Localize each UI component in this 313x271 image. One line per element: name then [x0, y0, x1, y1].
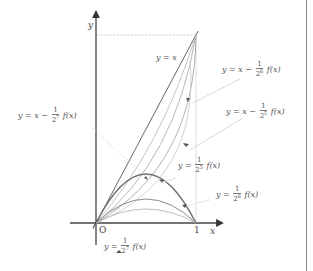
- label-y-eq-x: y = x: [156, 54, 177, 62]
- label-f-2-6: y = 126 f(x): [216, 186, 258, 203]
- label-x-minus-2-5: y = x − 125 f(x): [226, 103, 285, 120]
- curve-f-2-6: [96, 199, 196, 223]
- leader-line: [186, 200, 210, 206]
- arrow-marker: [183, 143, 189, 147]
- diagram-canvas: [0, 0, 313, 271]
- origin-label: O: [99, 225, 106, 235]
- x-tick-1: 1: [194, 225, 200, 235]
- function-diagram: y x O 1 y = x y = x − 126 f(x) y = x − 1…: [0, 0, 313, 271]
- y-axis-label: y: [88, 20, 93, 30]
- label-f-2-5: y = 125 f(x): [178, 157, 220, 174]
- label-x-minus-2-7: y = x − 127 f(x): [18, 107, 77, 124]
- arrow-marker: [144, 176, 148, 180]
- label-f-2-7: y = 127 f(x): [104, 238, 146, 255]
- arrow-marker: [186, 98, 190, 102]
- leader-line: [92, 128, 145, 176]
- x-axis-label: x: [210, 226, 215, 236]
- right-border: [306, 0, 307, 271]
- leader-line: [193, 79, 240, 103]
- leader-line: [190, 118, 243, 150]
- label-x-minus-2-6: y = x − 126 f(x): [222, 61, 281, 78]
